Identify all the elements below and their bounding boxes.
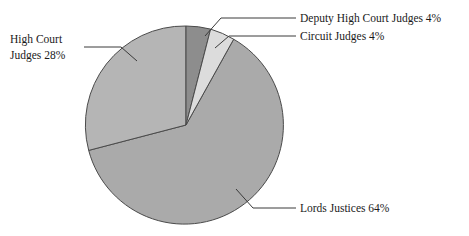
pie-chart-figure: Deputy High Court Judges 4% Circuit Judg… bbox=[0, 0, 469, 236]
label-high-court-judges-line1: High Court bbox=[10, 33, 63, 46]
pie-chart-svg: Deputy High Court Judges 4% Circuit Judg… bbox=[0, 0, 469, 236]
pie-slices bbox=[85, 26, 283, 224]
label-lords-justices: Lords Justices 64% bbox=[300, 202, 390, 214]
label-deputy-high-court-judges: Deputy High Court Judges 4% bbox=[300, 12, 442, 25]
label-high-court-judges-line2: Judges 28% bbox=[10, 49, 66, 62]
label-circuit-judges: Circuit Judges 4% bbox=[300, 30, 385, 43]
